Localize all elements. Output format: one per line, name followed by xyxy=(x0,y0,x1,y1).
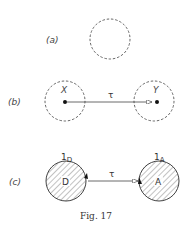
node-x-dot xyxy=(63,100,67,104)
edge-tau-label: τ xyxy=(108,90,113,100)
panel-a-label: (a) xyxy=(46,35,59,45)
panel-a: (a) xyxy=(46,19,130,59)
figure-17-diagram: (a) (b) X Y τ (c) D 1D A 1A τ Fig. 17 xyxy=(0,0,189,226)
node-y-label: Y xyxy=(153,85,160,95)
node-y-dot xyxy=(155,100,159,104)
dashed-circle xyxy=(90,19,130,59)
panel-b: (b) X Y τ xyxy=(8,81,174,121)
panel-c: (c) D 1D A 1A τ xyxy=(9,152,179,201)
node-a-label: A xyxy=(155,177,162,187)
edge-tau-label: τ xyxy=(109,169,114,179)
panel-c-label: (c) xyxy=(9,177,21,187)
node-x-label: X xyxy=(60,85,68,95)
node-d-label: D xyxy=(62,177,69,187)
figure-caption: Fig. 17 xyxy=(80,211,112,221)
panel-b-label: (b) xyxy=(8,97,21,107)
